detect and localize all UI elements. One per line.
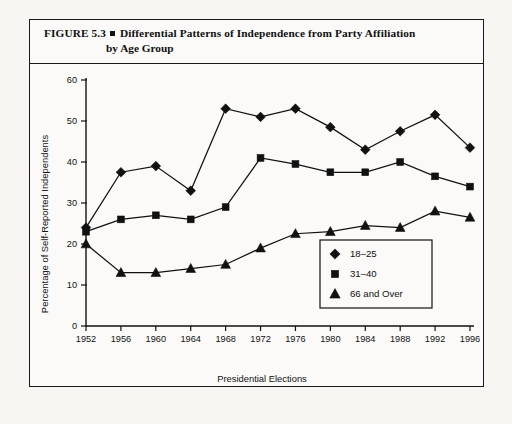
x-tick-label: 1960 xyxy=(146,334,166,344)
x-tick-label: 1980 xyxy=(320,334,340,344)
data-point-square xyxy=(327,169,334,176)
y-tick-label: 10 xyxy=(67,280,77,290)
data-point-triangle xyxy=(256,243,266,252)
data-point-diamond xyxy=(186,186,196,196)
data-point-diamond xyxy=(116,167,126,177)
x-tick-label: 1956 xyxy=(111,334,131,344)
data-point-square xyxy=(397,159,404,166)
data-point-square xyxy=(187,216,194,223)
x-tick-label: 1964 xyxy=(181,334,201,344)
data-point-triangle xyxy=(116,268,126,277)
x-tick-label: 1984 xyxy=(355,334,375,344)
data-point-diamond xyxy=(291,104,301,114)
data-point-triangle xyxy=(430,206,440,215)
series-line xyxy=(86,158,470,232)
figure-title-text: Differential Patterns of Independence fr… xyxy=(120,27,416,39)
y-tick-label: 50 xyxy=(67,116,77,126)
data-point-square xyxy=(83,228,90,235)
x-tick-label: 1968 xyxy=(215,334,235,344)
y-tick-label: 40 xyxy=(67,157,77,167)
data-point-square xyxy=(222,204,229,211)
data-point-square xyxy=(432,173,439,180)
data-point-triangle xyxy=(360,220,370,229)
figure-container: FIGURE 5.3Differential Patterns of Indep… xyxy=(29,19,484,387)
chart-legend: 18–2531–4066 and Over xyxy=(320,240,432,308)
x-tick-label: 1972 xyxy=(250,334,270,344)
square-bullet-icon xyxy=(110,31,115,36)
data-point-diamond xyxy=(221,104,231,114)
y-tick-label: 60 xyxy=(67,75,77,85)
plot-area: 0102030405060 19521956196019641968197219… xyxy=(30,64,483,386)
data-point-square xyxy=(152,212,159,219)
line-chart: 0102030405060 19521956196019641968197219… xyxy=(30,64,485,388)
data-point-diamond xyxy=(256,112,266,122)
data-point-triangle xyxy=(221,259,231,268)
data-point-square xyxy=(292,161,299,168)
y-axis-title: Percentage of Self-Reported Independents xyxy=(39,135,50,314)
figure-caption-line-1: FIGURE 5.3Differential Patterns of Indep… xyxy=(44,26,473,41)
legend-label: 66 and Over xyxy=(350,288,404,299)
data-point-diamond xyxy=(326,122,336,132)
x-tick-label: 1996 xyxy=(460,334,480,344)
x-axis: 1952195619601964196819721976198019841988… xyxy=(76,326,480,344)
data-point-square xyxy=(362,169,369,176)
series-square xyxy=(83,155,474,236)
data-point-square xyxy=(118,216,125,223)
y-axis: 0102030405060 xyxy=(67,75,87,331)
figure-header: FIGURE 5.3Differential Patterns of Indep… xyxy=(30,20,483,64)
data-point-square xyxy=(467,183,474,190)
data-point-diamond xyxy=(151,161,161,171)
data-point-diamond xyxy=(395,126,405,136)
data-point-square xyxy=(257,155,264,162)
x-tick-label: 1952 xyxy=(76,334,96,344)
figure-caption-line-2: by Age Group xyxy=(44,41,473,56)
x-tick-label: 1988 xyxy=(390,334,410,344)
y-tick-label: 0 xyxy=(72,321,77,331)
y-tick-label: 20 xyxy=(67,239,77,249)
x-tick-label: 1976 xyxy=(285,334,305,344)
series-line xyxy=(86,109,470,228)
data-point-triangle xyxy=(81,239,91,248)
legend-label: 18–25 xyxy=(350,248,377,259)
legend-label: 31–40 xyxy=(350,268,377,279)
data-point-diamond xyxy=(360,145,370,155)
y-tick-label: 30 xyxy=(67,198,77,208)
figure-label: FIGURE 5.3 xyxy=(44,27,106,39)
data-point-square xyxy=(331,270,338,277)
x-axis-title: Presidential Elections xyxy=(217,373,307,384)
x-tick-label: 1992 xyxy=(425,334,445,344)
